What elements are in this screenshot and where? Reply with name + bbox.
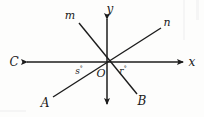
ray-label-a: A: [41, 97, 50, 109]
axis-label-x: x: [189, 56, 196, 68]
axis-label-y: y: [107, 3, 114, 15]
figure-canvas: [0, 0, 204, 117]
angle-r-degree-symbol: °: [124, 64, 127, 71]
origin-label: O: [96, 68, 105, 79]
ray-label-m: m: [65, 10, 75, 21]
angle-label-r: r°: [119, 65, 126, 76]
geometry-figure: y x m n A B C O s° r°: [0, 0, 204, 117]
angle-label-s: s°: [75, 65, 83, 76]
ray-label-c: C: [9, 56, 18, 68]
ray-label-n: n: [163, 17, 170, 28]
ray-label-b: B: [138, 95, 147, 107]
line-m-b: [79, 23, 137, 94]
angle-s-degree-symbol: °: [80, 64, 83, 71]
